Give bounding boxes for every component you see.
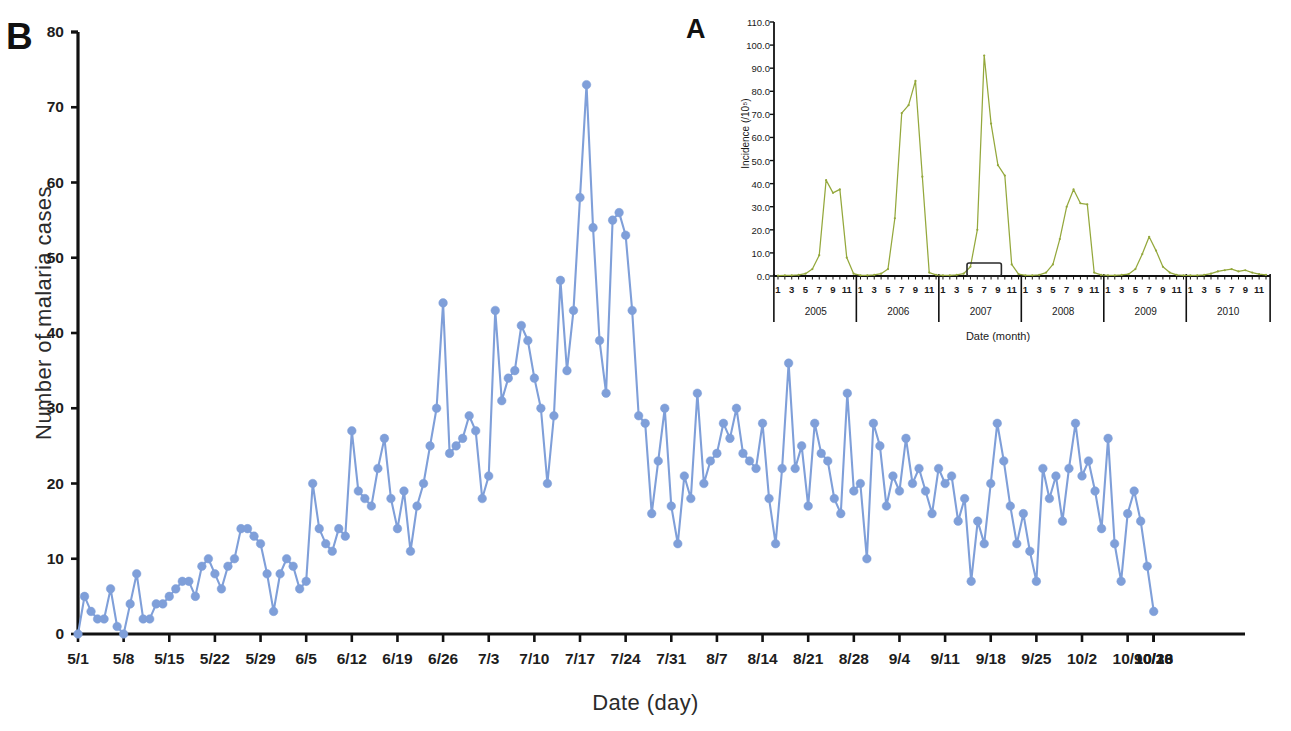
panel-b-point (628, 306, 637, 315)
panel-b-y-tick-50: 50 (12, 249, 64, 267)
panel-a-point (873, 274, 875, 276)
panel-b-point (80, 592, 89, 601)
panel-a-month-tick-2005-9: 9 (830, 284, 835, 295)
panel-b-point (1117, 577, 1126, 586)
panel-a-point (976, 229, 978, 231)
panel-b-point (413, 502, 422, 511)
panel-b-point (973, 517, 982, 526)
panel-b-point (158, 600, 167, 609)
panel-a-point (956, 274, 958, 276)
panel-b-point (954, 517, 963, 526)
panel-b-point (432, 404, 441, 413)
panel-b-point (960, 494, 969, 503)
panel-a-year-separators (774, 274, 1270, 322)
panel-a-month-tick-2010-7: 7 (1229, 284, 1234, 295)
panel-b-point (765, 494, 774, 503)
panel-a-month-tick-2007-3: 3 (954, 284, 959, 295)
panel-a-y-tick-0.0: 0.0 (728, 271, 770, 282)
panel-b-point (967, 577, 976, 586)
panel-a-point (1004, 174, 1006, 176)
panel-a-point (935, 274, 937, 276)
panel-a-month-tick-2009-11: 11 (1172, 284, 1182, 295)
panel-a-month-tick-2005-3: 3 (789, 284, 794, 295)
panel-b-point (993, 419, 1002, 428)
panel-b-x-tick-5-1: 5/1 (67, 650, 89, 668)
panel-a-month-tick-2008-1: 1 (1023, 284, 1028, 295)
panel-b-point (1026, 547, 1035, 556)
panel-b-point (784, 359, 793, 368)
panel-a-month-tick-2008-5: 5 (1050, 284, 1055, 295)
panel-a-point (880, 273, 882, 275)
panel-b-point (256, 539, 265, 548)
panel-a-axes (774, 22, 1270, 276)
panel-b-point (328, 547, 337, 556)
panel-b-point (810, 419, 819, 428)
panel-a-month-tick-2005-1: 1 (775, 284, 780, 295)
panel-a-point (962, 273, 964, 275)
panel-a-point (1182, 274, 1184, 276)
panel-a-y-tick-20.0: 20.0 (728, 224, 770, 235)
panel-b-point (530, 374, 539, 383)
panel-b-point (908, 479, 917, 488)
panel-b-point (778, 464, 787, 473)
panel-b-point (185, 577, 194, 586)
panel-a-point (1251, 271, 1253, 273)
panel-a-point (1072, 188, 1074, 190)
panel-a-y-tick-50.0: 50.0 (728, 155, 770, 166)
panel-a-y-tick-30.0: 30.0 (728, 201, 770, 212)
panel-a-point (866, 274, 868, 276)
panel-b-point (667, 502, 676, 511)
panel-a-y-tick-70.0: 70.0 (728, 109, 770, 120)
panel-a-month-tick-2009-7: 7 (1146, 284, 1151, 295)
panel-b-point (726, 434, 735, 443)
panel-a-month-tick-2008-3: 3 (1037, 284, 1042, 295)
panel-b-point (289, 562, 298, 571)
panel-b-y-tick-70: 70 (12, 98, 64, 116)
panel-b-point (999, 457, 1008, 466)
panel-b-point (1065, 464, 1074, 473)
panel-a-point (777, 274, 779, 276)
panel-b-point (263, 570, 272, 579)
panel-b-point (876, 442, 885, 451)
panel-b-point (380, 434, 389, 443)
panel-a-point (1114, 274, 1116, 276)
panel-b-point (869, 419, 878, 428)
panel-b-point (243, 524, 252, 533)
panel-b-point (986, 479, 995, 488)
panel-b-point (269, 607, 278, 616)
panel-a-point (1031, 274, 1033, 276)
panel-a-point (784, 274, 786, 276)
panel-a-data-markers (777, 54, 1267, 276)
panel-a-month-tick-2010-9: 9 (1243, 284, 1248, 295)
panel-b-point (856, 479, 865, 488)
panel-a-point (1224, 269, 1226, 271)
panel-b-point (556, 276, 565, 285)
panel-b-point (445, 449, 454, 458)
panel-a-month-tick-2005-5: 5 (803, 284, 808, 295)
figure-container: B Number of malaria cases Date (day) 010… (0, 0, 1291, 731)
panel-b-point (211, 570, 220, 579)
panel-b-point (771, 539, 780, 548)
panel-b-point (687, 494, 696, 503)
panel-a-year-2008: 2008 (1052, 306, 1074, 317)
panel-b-point (915, 464, 924, 473)
panel-b-y-tick-30: 30 (12, 399, 64, 417)
panel-a-year-2005: 2005 (805, 306, 827, 317)
panel-b-point (608, 216, 617, 225)
panel-b-x-tick-9-11: 9/11 (930, 650, 959, 668)
panel-b-point (497, 396, 506, 405)
panel-a-point (1093, 271, 1095, 273)
panel-b-point (171, 585, 180, 594)
panel-a-point (1148, 236, 1150, 238)
panel-b-point (250, 532, 259, 541)
panel-b-point (302, 577, 311, 586)
panel-b-point (224, 562, 233, 571)
panel-b-point (361, 494, 370, 503)
panel-b-point (589, 223, 598, 232)
panel-b-point (1058, 517, 1067, 526)
panel-b-point (1052, 472, 1061, 481)
panel-a-point (1079, 202, 1081, 204)
panel-b-point (895, 487, 904, 496)
panel-a-point (1121, 274, 1123, 276)
panel-a-point (832, 192, 834, 194)
